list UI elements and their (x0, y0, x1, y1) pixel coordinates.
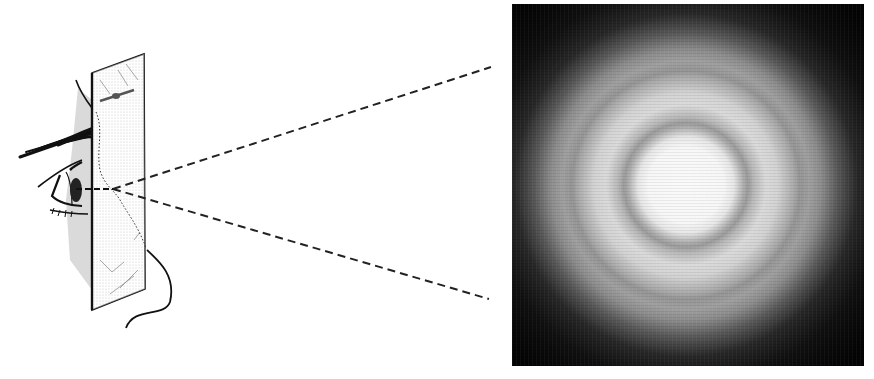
glass-plate (92, 54, 146, 310)
figure (0, 0, 874, 379)
halo-ring-photo (512, 4, 864, 366)
upper-ray (113, 67, 491, 189)
photo-grain (512, 4, 864, 366)
